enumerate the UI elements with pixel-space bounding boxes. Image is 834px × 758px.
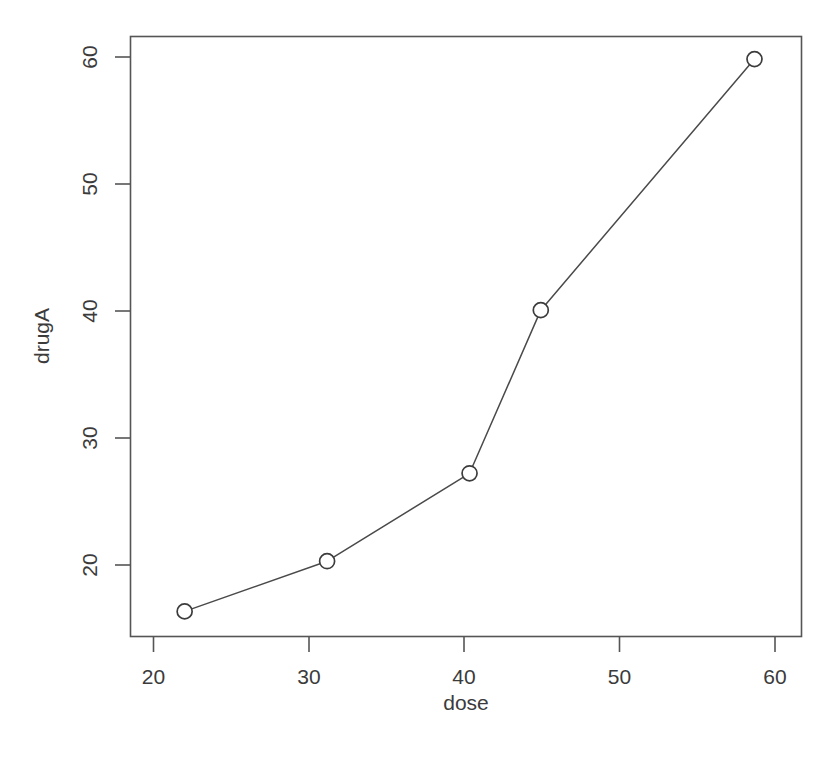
series-line xyxy=(185,59,755,611)
series-markers xyxy=(177,52,762,619)
line-chart: 20 30 40 50 60 20 30 40 50 60 dose drugA xyxy=(0,0,834,758)
x-tick-label-0: 20 xyxy=(142,665,165,688)
data-series-drugA xyxy=(177,52,762,619)
data-point xyxy=(462,466,477,481)
y-tick-label-1: 30 xyxy=(78,426,101,449)
x-axis-tick-labels: 20 30 40 50 60 xyxy=(142,665,787,688)
data-point xyxy=(320,554,335,569)
data-point xyxy=(177,604,192,619)
x-tick-label-3: 50 xyxy=(608,665,631,688)
y-tick-label-3: 50 xyxy=(78,172,101,195)
x-axis-title: dose xyxy=(443,691,489,714)
x-tick-label-4: 60 xyxy=(763,665,786,688)
y-axis-ticks xyxy=(115,57,130,565)
y-tick-label-4: 60 xyxy=(78,45,101,68)
y-axis-tick-labels: 20 30 40 50 60 xyxy=(78,45,101,576)
plot-frame xyxy=(131,37,802,637)
x-tick-label-2: 40 xyxy=(452,665,475,688)
y-tick-label-0: 20 xyxy=(78,553,101,576)
x-tick-label-1: 30 xyxy=(297,665,320,688)
data-point xyxy=(533,303,548,318)
y-tick-label-2: 40 xyxy=(78,299,101,322)
x-axis-ticks xyxy=(154,637,776,652)
data-point xyxy=(747,52,762,67)
plot-canvas: 20 30 40 50 60 20 30 40 50 60 dose drugA xyxy=(0,0,834,758)
y-axis-title: drugA xyxy=(30,308,53,364)
